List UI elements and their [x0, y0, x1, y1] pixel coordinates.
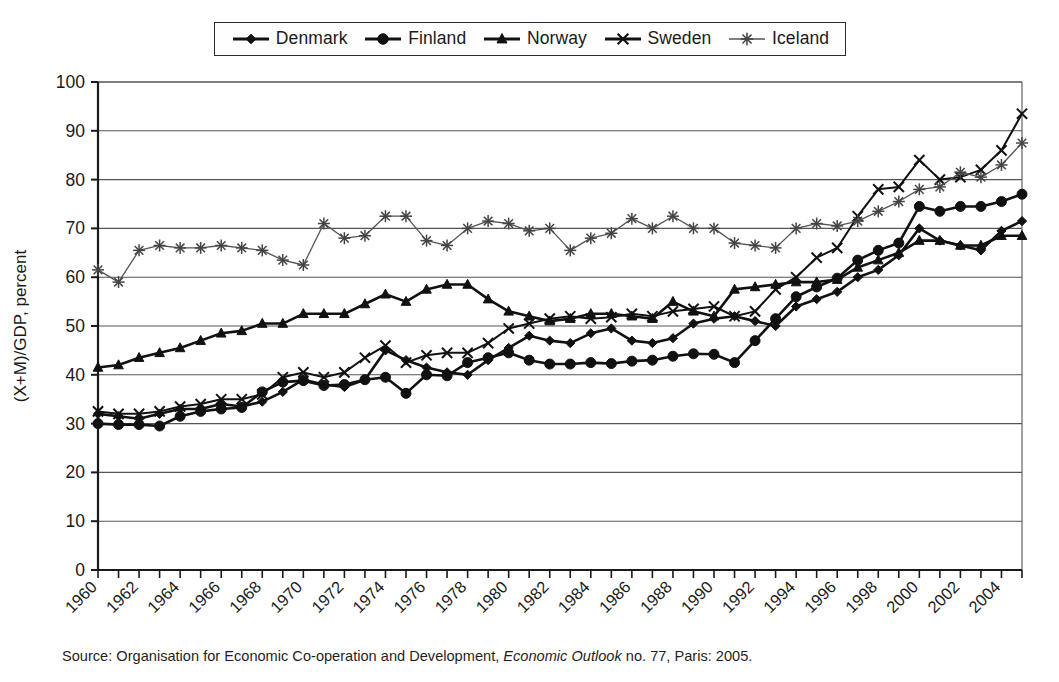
svg-text:1994: 1994: [760, 577, 799, 616]
svg-text:1962: 1962: [102, 577, 141, 616]
svg-text:1970: 1970: [267, 577, 306, 616]
svg-text:1990: 1990: [677, 577, 716, 616]
svg-text:1966: 1966: [185, 577, 224, 616]
y-axis-title: (X+M)/GDP, percent: [11, 250, 30, 403]
chart-figure: 0102030405060708090100 19601962196419661…: [0, 0, 1059, 682]
svg-text:1998: 1998: [842, 577, 881, 616]
svg-text:1984: 1984: [554, 577, 593, 616]
source-prefix: Source: Organisation for Economic Co-ope…: [62, 648, 503, 664]
circle-marker-icon: [363, 30, 403, 48]
svg-text:1978: 1978: [431, 577, 470, 616]
svg-text:1976: 1976: [390, 577, 429, 616]
svg-text:2000: 2000: [883, 577, 922, 616]
legend-entry-iceland[interactable]: Iceland: [727, 30, 829, 48]
svg-text:1982: 1982: [513, 577, 552, 616]
line-chart-canvas: 0102030405060708090100 19601962196419661…: [0, 0, 1059, 682]
y-axis-ticks: 0102030405060708090100: [56, 72, 98, 580]
source-note: Source: Organisation for Economic Co-ope…: [62, 648, 752, 664]
svg-text:60: 60: [66, 267, 86, 287]
data-series-group: [92, 109, 1028, 431]
svg-text:90: 90: [66, 121, 86, 141]
svg-text:100: 100: [56, 72, 85, 92]
series-finland: [93, 189, 1027, 431]
gridlines: [98, 82, 1022, 521]
svg-text:1986: 1986: [595, 577, 634, 616]
svg-text:2004: 2004: [965, 577, 1004, 616]
svg-text:30: 30: [66, 414, 86, 434]
svg-text:1972: 1972: [308, 577, 347, 616]
legend-label: Sweden: [646, 30, 712, 48]
svg-text:1988: 1988: [636, 577, 675, 616]
svg-text:1964: 1964: [144, 577, 183, 616]
triangle-marker-icon: [482, 30, 522, 48]
legend-entry-norway[interactable]: Norway: [482, 30, 587, 48]
series-iceland: [92, 137, 1028, 288]
svg-text:1992: 1992: [718, 577, 757, 616]
svg-text:1996: 1996: [801, 577, 840, 616]
series-norway: [93, 231, 1027, 372]
svg-text:50: 50: [66, 316, 86, 336]
legend-label: Norway: [525, 30, 587, 48]
svg-text:2002: 2002: [924, 577, 963, 616]
svg-text:20: 20: [66, 462, 86, 482]
svg-text:1960: 1960: [61, 577, 100, 616]
chart-legend: DenmarkFinlandNorwaySwedenIceland: [214, 22, 846, 56]
x-marker-icon: [603, 30, 643, 48]
legend-entry-sweden[interactable]: Sweden: [603, 30, 712, 48]
x-axis-ticks: 1960196219641966196819701972197419761978…: [61, 570, 1022, 616]
legend-entry-denmark[interactable]: Denmark: [231, 30, 348, 48]
legend-label: Iceland: [770, 30, 829, 48]
asterisk-marker-icon: [727, 30, 767, 48]
diamond-marker-icon: [231, 30, 271, 48]
legend-label: Denmark: [274, 30, 348, 48]
svg-text:(X+M)/GDP, percent: (X+M)/GDP, percent: [11, 250, 30, 403]
svg-text:1974: 1974: [349, 577, 388, 616]
source-italic-title: Economic Outlook: [503, 648, 621, 664]
legend-label: Finland: [406, 30, 466, 48]
svg-text:1968: 1968: [226, 577, 265, 616]
svg-text:40: 40: [66, 365, 86, 385]
svg-text:80: 80: [66, 170, 86, 190]
svg-text:1980: 1980: [472, 577, 511, 616]
svg-text:10: 10: [66, 511, 86, 531]
legend-entry-finland[interactable]: Finland: [363, 30, 466, 48]
svg-text:70: 70: [66, 218, 86, 238]
source-suffix: no. 77, Paris: 2005.: [622, 648, 753, 664]
svg-text:0: 0: [75, 560, 85, 580]
